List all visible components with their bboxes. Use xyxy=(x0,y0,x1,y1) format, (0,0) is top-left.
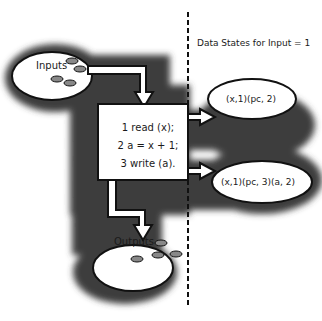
program-line-3: 3 write (a). xyxy=(121,158,176,169)
output-token xyxy=(131,256,143,262)
output-token xyxy=(152,252,164,258)
outputs-label: Outputs xyxy=(114,236,154,247)
input-token xyxy=(64,80,76,86)
data-states-header: Data States for Input = 1 xyxy=(197,38,310,48)
inputs-label: Inputs xyxy=(36,60,67,71)
state-2-label: (x,1)(pc, 3)(a, 2) xyxy=(221,177,295,187)
input-token xyxy=(74,66,86,72)
program-line-2: 2 a = x + 1; xyxy=(118,140,179,151)
output-token xyxy=(155,240,167,246)
input-token xyxy=(51,76,63,82)
state-1-label: (x,1)(pc, 2) xyxy=(226,94,276,104)
output-token xyxy=(170,251,182,257)
state-node-1: (x,1)(pc, 2) xyxy=(208,79,296,119)
state-node-2: (x,1)(pc, 3)(a, 2) xyxy=(212,161,312,203)
program-box: 1 read (x); 2 a = x + 1; 3 write (a). xyxy=(98,104,188,180)
diagram-canvas: Inputs 1 read (x); 2 a = x + 1; 3 write … xyxy=(0,0,322,321)
input-token xyxy=(66,58,78,64)
program-line-1: 1 read (x); xyxy=(122,122,174,133)
